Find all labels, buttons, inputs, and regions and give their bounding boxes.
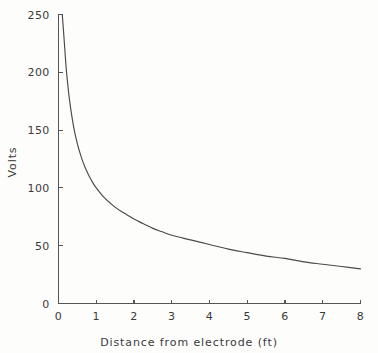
voltage-curve xyxy=(62,15,360,269)
y-axis-tick-labels: 050100150200250 xyxy=(28,9,50,311)
chart-figure: 012345678 050100150200250 Distance from … xyxy=(0,0,378,353)
x-tick-label: 3 xyxy=(168,310,175,323)
x-tick-label: 5 xyxy=(244,310,251,323)
y-tick-label: 200 xyxy=(28,66,50,79)
y-axis-ticks xyxy=(59,15,63,246)
y-tick-label: 50 xyxy=(35,240,50,253)
x-tick-label: 7 xyxy=(319,310,326,323)
x-axis-ticks xyxy=(59,300,361,304)
x-tick-label: 0 xyxy=(55,310,62,323)
x-tick-label: 8 xyxy=(357,310,364,323)
x-tick-label: 6 xyxy=(281,310,288,323)
y-tick-label: 250 xyxy=(28,9,50,22)
x-axis-tick-labels: 012345678 xyxy=(55,310,364,323)
y-tick-label: 0 xyxy=(42,298,49,311)
x-tick-label: 1 xyxy=(93,310,100,323)
y-axis-title: Volts xyxy=(6,146,19,177)
x-tick-label: 4 xyxy=(206,310,213,323)
chart-plot-area: 012345678 050100150200250 Distance from … xyxy=(0,0,378,353)
x-axis-title: Distance from electrode (ft) xyxy=(100,336,278,349)
x-tick-label: 2 xyxy=(130,310,137,323)
y-tick-label: 150 xyxy=(28,124,50,137)
y-tick-label: 100 xyxy=(28,182,50,195)
